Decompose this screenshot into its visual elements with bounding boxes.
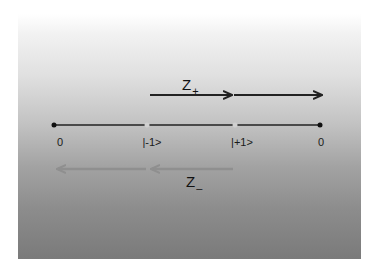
raise-operator-symbol: Z bbox=[182, 76, 191, 93]
lower-operator-subscript: – bbox=[196, 182, 202, 194]
axis-label-minus1: |-1> bbox=[142, 136, 161, 148]
raise-operator-label: Z+ bbox=[182, 76, 199, 97]
axis-label-plus1: |+1> bbox=[231, 136, 253, 148]
end-dot-right bbox=[318, 123, 323, 128]
lower-operator-label: Z– bbox=[186, 173, 202, 194]
raise-operator-subscript: + bbox=[192, 85, 198, 97]
axis-label-left-zero: 0 bbox=[57, 136, 63, 148]
state-dot-plus1 bbox=[233, 123, 238, 128]
state-dot-minus1 bbox=[145, 123, 150, 128]
end-dot-left bbox=[52, 123, 57, 128]
axis-label-right-zero: 0 bbox=[318, 136, 324, 148]
lower-operator-symbol: Z bbox=[186, 173, 195, 190]
